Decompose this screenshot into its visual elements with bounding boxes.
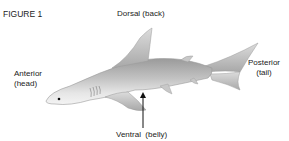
shark-illustration (0, 0, 289, 141)
shark-body (46, 28, 258, 111)
shark-eye (58, 98, 61, 101)
